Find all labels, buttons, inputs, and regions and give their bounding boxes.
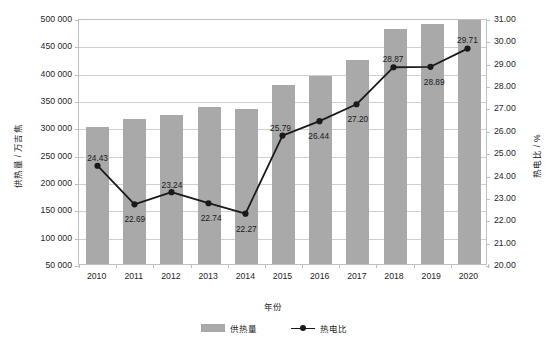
y2-tick-mark (486, 199, 490, 200)
line-data-label: 22.74 (201, 214, 222, 222)
y-axis-tick-label: 350 000 (20, 97, 72, 106)
x-axis-tick-label: 2014 (225, 272, 265, 281)
y2-axis-tick-label: 28.00 (494, 82, 538, 91)
y2-tick-mark (486, 109, 490, 110)
line-marker[interactable] (353, 101, 359, 107)
y2-tick-mark (486, 87, 490, 88)
y2-axis-tick-label: 24.00 (494, 172, 538, 181)
x-tick-mark (191, 264, 192, 268)
legend-bar-label: 供热量 (230, 322, 257, 334)
line-marker[interactable] (279, 132, 285, 138)
y-axis-tick-label: 300 000 (20, 124, 72, 133)
y2-axis-tick-label: 20.00 (494, 261, 538, 270)
x-axis-tick-label: 2012 (151, 272, 191, 281)
y-axis-tick-label: 100 000 (20, 234, 72, 243)
legend-item-bar[interactable]: 供热量 (201, 322, 257, 334)
y-axis-tick-label: 500 000 (20, 15, 72, 24)
line-marker[interactable] (205, 200, 211, 206)
x-axis-title: 年份 (0, 300, 547, 312)
chart-legend: 供热量 热电比 (0, 322, 547, 334)
y2-axis-tick-label: 22.00 (494, 216, 538, 225)
y2-axis-tick-label: 27.00 (494, 104, 538, 113)
y2-axis-tick-label: 31.00 (494, 15, 538, 24)
x-axis-tick-label: 2020 (448, 272, 488, 281)
y2-tick-mark (486, 177, 490, 178)
chart-container: 供热量 / 万吉焦 热电比 / % 年份 50 000100 000150 00… (0, 0, 547, 347)
y-axis-tick-label: 400 000 (20, 70, 72, 79)
x-axis-tick-label: 2017 (337, 272, 377, 281)
y-axis-tick-label: 450 000 (20, 42, 72, 51)
x-tick-mark (228, 264, 229, 268)
x-axis-tick-label: 2019 (411, 272, 451, 281)
y2-axis-tick-label: 26.00 (494, 127, 538, 136)
y2-axis-tick-label: 23.00 (494, 194, 538, 203)
x-axis-tick-label: 2010 (77, 272, 117, 281)
x-tick-mark (488, 264, 489, 268)
x-tick-mark (153, 264, 154, 268)
y2-axis-tick-label: 29.00 (494, 60, 538, 69)
line-marker[interactable] (427, 64, 433, 70)
x-axis-tick-label: 2011 (114, 272, 154, 281)
x-tick-mark (339, 264, 340, 268)
x-tick-mark (414, 264, 415, 268)
x-tick-mark (376, 264, 377, 268)
y2-tick-mark (486, 221, 490, 222)
legend-bar-swatch-icon (201, 324, 225, 332)
line-data-label: 29.71 (457, 36, 478, 44)
line-marker[interactable] (94, 163, 100, 169)
y2-tick-mark (486, 154, 490, 155)
line-data-label: 25.79 (270, 124, 291, 132)
line-data-label: 24.43 (87, 154, 108, 162)
line-data-label: 26.44 (308, 132, 329, 140)
line-data-label: 27.20 (347, 115, 368, 123)
line-marker[interactable] (242, 211, 248, 217)
x-axis-tick-label: 2015 (263, 272, 303, 281)
y2-tick-mark (486, 132, 490, 133)
y-axis-tick-label: 150 000 (20, 206, 72, 215)
line-series (79, 20, 486, 264)
legend-line-label: 热电比 (320, 322, 347, 334)
y-axis-tick-label: 50 000 (20, 261, 72, 270)
y2-tick-mark (486, 65, 490, 66)
line-marker[interactable] (168, 189, 174, 195)
y2-axis-tick-label: 30.00 (494, 37, 538, 46)
y2-tick-mark (486, 42, 490, 43)
legend-item-line[interactable]: 热电比 (291, 322, 347, 334)
y2-axis-tick-label: 21.00 (494, 239, 538, 248)
legend-line-marker-icon (291, 324, 315, 332)
x-tick-mark (79, 264, 80, 268)
line-data-label: 22.69 (124, 215, 145, 223)
line-marker[interactable] (390, 64, 396, 70)
line-marker[interactable] (131, 201, 137, 207)
plot-area: 24.4322.6923.2422.7422.2725.7926.4427.20… (78, 19, 487, 265)
x-tick-mark (116, 264, 117, 268)
x-tick-mark (302, 264, 303, 268)
x-tick-mark (265, 264, 266, 268)
x-axis-tick-label: 2018 (374, 272, 414, 281)
line-data-label: 22.27 (236, 225, 257, 233)
line-marker[interactable] (464, 46, 470, 52)
x-axis-tick-label: 2013 (188, 272, 228, 281)
y-axis-tick-label: 200 000 (20, 179, 72, 188)
y-axis-tick-label: 250 000 (20, 152, 72, 161)
line-data-label: 28.89 (424, 78, 445, 86)
x-tick-mark (451, 264, 452, 268)
line-data-label: 28.87 (383, 55, 404, 63)
y2-axis-tick-label: 25.00 (494, 149, 538, 158)
line-marker[interactable] (316, 118, 322, 124)
y2-tick-mark (486, 244, 490, 245)
y2-tick-mark (486, 20, 490, 21)
line-data-label: 23.24 (162, 181, 183, 189)
x-axis-tick-label: 2016 (300, 272, 340, 281)
